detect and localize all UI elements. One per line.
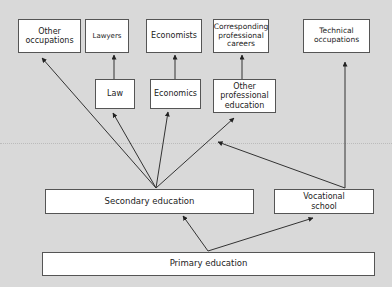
arrow-primary-to-vocational (208, 218, 313, 251)
arrow-secondary-to-law (113, 113, 156, 188)
node-label: Technical occupations (304, 27, 369, 44)
arrow-secondary-to-economics (156, 112, 168, 188)
node-label: Vocational school (303, 192, 345, 210)
node-economists: Economists (146, 19, 202, 53)
node-other-occupations: Other occupations (18, 19, 81, 53)
node-label: Primary education (170, 259, 248, 269)
node-label: Economics (154, 89, 197, 98)
node-label: Other occupations (19, 27, 80, 45)
node-label: Law (107, 89, 123, 98)
node-label: Lawyers (93, 32, 122, 40)
node-label: Secondary education (105, 197, 195, 207)
node-corresponding-careers: Corresponding professional careers (213, 19, 269, 53)
node-label: Corresponding professional careers (214, 23, 269, 49)
node-lawyers: Lawyers (85, 19, 129, 53)
node-economics: Economics (150, 79, 201, 109)
arrow-secondary-to-other-professional (156, 118, 234, 188)
arrow-vocational-to-secondary (218, 142, 345, 188)
node-vocational-school: Vocational school (274, 189, 374, 214)
node-other-professional-education: Other professional education (213, 79, 276, 113)
arrow-secondary-to-other-occupations (42, 58, 156, 188)
node-law: Law (95, 79, 135, 109)
node-technical-occupations: Technical occupations (303, 19, 370, 53)
arrow-primary-to-secondary (183, 216, 208, 251)
node-label: Economists (151, 31, 197, 40)
node-secondary-education: Secondary education (45, 189, 254, 214)
node-primary-education: Primary education (42, 252, 375, 276)
node-label: Other professional education (214, 82, 275, 110)
